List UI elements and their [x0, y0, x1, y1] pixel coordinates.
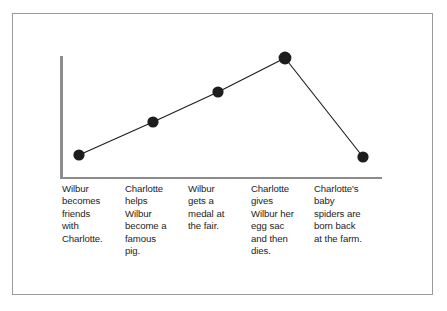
event-caption-1-text: Wilbur becomes friends with Charlotte.: [62, 183, 124, 245]
event-caption-4: Charlotte gives Wilbur her egg sac and t…: [251, 183, 313, 257]
event-caption-1: Wilbur becomes friends with Charlotte.: [62, 183, 124, 245]
event-caption-row: Wilbur becomes friends with Charlotte. C…: [62, 183, 422, 257]
event-caption-3: Wilbur gets a medal at the fair.: [188, 183, 250, 233]
event-caption-2-text: Charlotte helps Wilbur become a famous p…: [125, 183, 187, 257]
event-caption-4-text: Charlotte gives Wilbur her egg sac and t…: [251, 183, 313, 257]
event-caption-3-text: Wilbur gets a medal at the fair.: [188, 183, 250, 233]
event-caption-5: Charlotte's baby spiders are born back a…: [314, 183, 386, 245]
plot-diagram-figure: Wilbur becomes friends with Charlotte. C…: [0, 0, 447, 311]
event-caption-5-text: Charlotte's baby spiders are born back a…: [314, 183, 386, 245]
event-caption-2: Charlotte helps Wilbur become a famous p…: [125, 183, 187, 257]
